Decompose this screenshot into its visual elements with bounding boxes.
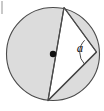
geometry-figure: a [0,0,104,111]
scan-artifact [1,1,3,14]
angle-label-a: a [77,40,84,55]
center-point-dot [50,51,56,57]
circle-triangle-diagram: a [0,0,104,111]
